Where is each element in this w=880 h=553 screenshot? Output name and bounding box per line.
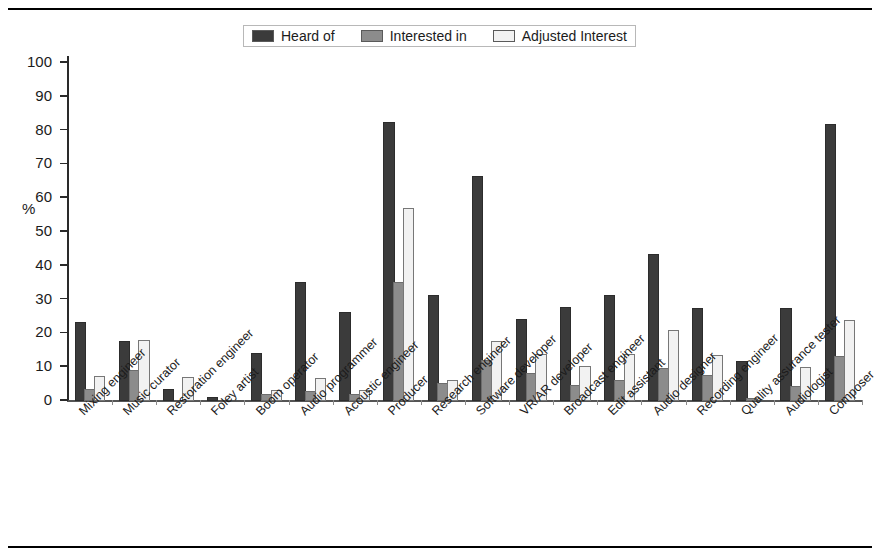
legend-item-adjusted-interest[interactable]: Adjusted Interest (493, 29, 627, 43)
x-tick (112, 400, 113, 405)
y-tick-100 (60, 61, 68, 63)
y-axis-line (67, 56, 69, 401)
legend-item-heard-of[interactable]: Heard of (252, 29, 335, 43)
y-tick-label-80: 80 (0, 122, 52, 137)
x-tick (377, 400, 378, 405)
y-tick-60 (60, 196, 68, 198)
y-tick-label-70: 70 (0, 155, 52, 170)
x-tick (730, 400, 731, 405)
legend-item-interested-in[interactable]: Interested in (361, 29, 467, 43)
x-tick (421, 400, 422, 405)
bar-group (428, 56, 457, 401)
bottom-rule (8, 546, 872, 548)
x-tick (597, 400, 598, 405)
x-tick (553, 400, 554, 405)
x-tick (156, 400, 157, 405)
y-tick-label-90: 90 (0, 88, 52, 103)
legend-label-adjusted-interest: Adjusted Interest (522, 29, 627, 43)
y-tick-label-10: 10 (0, 358, 52, 373)
x-tick (465, 400, 466, 405)
chart-figure: Heard of Interested in Adjusted Interest… (0, 0, 880, 553)
bar-group (119, 56, 148, 401)
legend-swatch-adjusted-interest (493, 30, 515, 42)
bar-group (251, 56, 280, 401)
x-tick (774, 400, 775, 405)
y-tick-label-60: 60 (0, 189, 52, 204)
y-tick-40 (60, 264, 68, 266)
y-tick-20 (60, 332, 68, 334)
legend-swatch-heard-of (252, 30, 274, 42)
bar-group (295, 56, 324, 401)
legend-label-heard-of: Heard of (281, 29, 335, 43)
bar-group (75, 56, 104, 401)
y-tick-0 (60, 399, 68, 401)
legend-label-interested-in: Interested in (390, 29, 467, 43)
x-tick (289, 400, 290, 405)
y-tick-label-30: 30 (0, 291, 52, 306)
y-tick-90 (60, 95, 68, 97)
bar-group (692, 56, 721, 401)
x-tick (200, 400, 201, 405)
y-tick-30 (60, 298, 68, 300)
y-tick-label-20: 20 (0, 324, 52, 339)
bar-group (825, 56, 854, 401)
y-tick-label-100: 100 (0, 54, 52, 69)
x-tick (818, 400, 819, 405)
bar[interactable] (403, 208, 414, 401)
x-tick (509, 400, 510, 405)
y-tick-10 (60, 365, 68, 367)
y-tick-label-50: 50 (0, 223, 52, 238)
y-tick-label-0: 0 (0, 392, 52, 407)
chart-legend: Heard of Interested in Adjusted Interest (243, 25, 636, 47)
y-tick-label-40: 40 (0, 257, 52, 272)
legend-swatch-interested-in (361, 30, 383, 42)
y-tick-50 (60, 230, 68, 232)
top-rule (8, 8, 872, 10)
x-tick (862, 400, 863, 405)
x-tick (686, 400, 687, 405)
y-tick-70 (60, 163, 68, 165)
bar-group (648, 56, 677, 401)
x-tick (333, 400, 334, 405)
y-tick-80 (60, 129, 68, 131)
bar-group (163, 56, 192, 401)
x-tick (244, 400, 245, 405)
x-tick (641, 400, 642, 405)
